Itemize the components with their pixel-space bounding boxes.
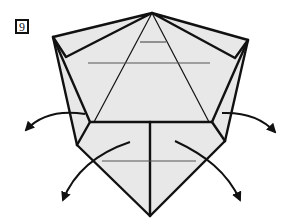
origami-diagram — [0, 0, 294, 223]
